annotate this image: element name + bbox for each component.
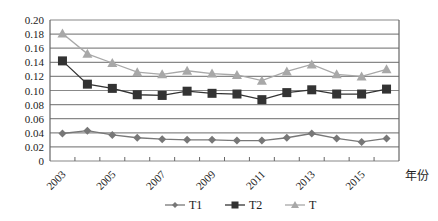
diamond-marker-icon bbox=[58, 130, 66, 138]
x-axis: 2003200520072009201120132015 bbox=[44, 157, 374, 192]
x-tick-label: 2015 bbox=[343, 168, 367, 192]
diamond-marker-icon bbox=[133, 134, 141, 142]
square-marker-icon bbox=[83, 80, 92, 89]
diamond-marker-icon bbox=[208, 136, 216, 144]
y-tick-label: 0 bbox=[39, 155, 45, 167]
diamond-marker-icon bbox=[183, 136, 191, 144]
triangle-marker-icon bbox=[182, 66, 192, 75]
y-tick-label: 0.12 bbox=[25, 70, 44, 82]
square-marker-icon bbox=[332, 90, 341, 99]
x-tick-label: 2007 bbox=[144, 168, 168, 192]
diamond-marker-icon bbox=[172, 202, 178, 208]
square-marker-icon bbox=[108, 84, 117, 93]
series-lines bbox=[57, 28, 391, 146]
legend-label: T bbox=[309, 198, 317, 212]
x-tick-label: 2009 bbox=[193, 168, 217, 192]
diamond-marker-icon bbox=[358, 138, 366, 146]
triangle-marker-icon bbox=[57, 28, 67, 37]
triangle-marker-icon bbox=[382, 64, 392, 73]
square-marker-icon bbox=[307, 85, 316, 94]
square-marker-icon bbox=[382, 85, 391, 94]
diamond-marker-icon bbox=[108, 131, 116, 139]
square-marker-icon bbox=[357, 90, 366, 99]
square-marker-icon bbox=[208, 89, 217, 98]
y-tick-label: 0.14 bbox=[25, 56, 45, 68]
diamond-marker-icon bbox=[83, 127, 91, 135]
diamond-marker-icon bbox=[383, 134, 391, 142]
square-marker-icon bbox=[257, 95, 266, 104]
y-tick-label: 0.20 bbox=[25, 14, 45, 26]
square-marker-icon bbox=[232, 202, 239, 209]
y-tick-label: 0.02 bbox=[25, 141, 44, 153]
triangle-marker-icon bbox=[332, 69, 342, 78]
square-marker-icon bbox=[158, 91, 167, 100]
x-tick-label: 2011 bbox=[244, 168, 268, 192]
series-t2 bbox=[58, 56, 391, 104]
x-tick-label: 2013 bbox=[293, 168, 317, 192]
y-tick-label: 0.04 bbox=[25, 127, 45, 139]
legend-item-t1: T1 bbox=[165, 198, 202, 212]
square-marker-icon bbox=[183, 87, 192, 96]
x-tick-label: 2005 bbox=[94, 168, 118, 192]
y-tick-label: 0.08 bbox=[25, 99, 45, 111]
square-marker-icon bbox=[232, 90, 241, 99]
y-tick-label: 0.18 bbox=[25, 28, 45, 40]
diamond-marker-icon bbox=[258, 137, 266, 145]
legend-item-t: T bbox=[285, 198, 317, 212]
x-tick-label: 2003 bbox=[44, 168, 68, 192]
diamond-marker-icon bbox=[158, 135, 166, 143]
y-tick-label: 0.10 bbox=[25, 85, 45, 97]
y-tick-label: 0.06 bbox=[25, 113, 45, 125]
diamond-marker-icon bbox=[233, 137, 241, 145]
square-marker-icon bbox=[282, 88, 291, 97]
diamond-marker-icon bbox=[283, 134, 291, 142]
legend-label: T2 bbox=[249, 198, 262, 212]
legend: T1T2T bbox=[165, 198, 317, 212]
line-chart: 00.020.040.060.080.100.120.140.160.180.2… bbox=[0, 0, 438, 221]
triangle-marker-icon bbox=[132, 67, 142, 76]
diamond-marker-icon bbox=[308, 130, 316, 138]
square-marker-icon bbox=[58, 56, 67, 65]
y-tick-label: 0.16 bbox=[25, 42, 45, 54]
diamond-marker-icon bbox=[333, 134, 341, 142]
y-axis: 00.020.040.060.080.100.120.140.160.180.2… bbox=[25, 14, 45, 167]
series-t1 bbox=[58, 127, 390, 146]
square-marker-icon bbox=[133, 90, 142, 99]
x-axis-unit-label: 年份 bbox=[405, 169, 429, 183]
triangle-marker-icon bbox=[307, 59, 317, 68]
legend-item-t2: T2 bbox=[225, 198, 262, 212]
legend-label: T1 bbox=[189, 198, 202, 212]
